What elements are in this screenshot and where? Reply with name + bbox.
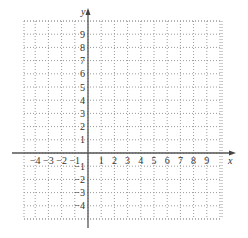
- x-tick-label: 7: [178, 155, 183, 166]
- y-tick-label: −4: [74, 200, 85, 211]
- y-tick-label: 5: [80, 82, 85, 93]
- y-tick-label: −1: [74, 161, 85, 172]
- tick-labels: −4−3−2−1123456789987654321−1−2−3−4: [30, 29, 209, 212]
- y-tick-label: 1: [80, 134, 85, 145]
- x-tick-label: 6: [165, 155, 170, 166]
- y-tick-label: 8: [80, 42, 85, 53]
- y-axis-arrow-icon: [86, 8, 91, 15]
- y-tick-label: 9: [80, 29, 85, 40]
- x-tick-label: 5: [152, 155, 157, 166]
- y-tick-label: 3: [80, 108, 85, 119]
- y-tick-label: −3: [74, 187, 85, 198]
- x-tick-label: 3: [125, 155, 130, 166]
- x-axis-label: x: [227, 155, 233, 166]
- x-tick-label: −3: [43, 155, 54, 166]
- y-tick-label: 6: [80, 68, 85, 79]
- y-axis-label: y: [80, 6, 86, 17]
- coordinate-plane: x y −4−3−2−1123456789987654321−1−2−3−4: [0, 0, 248, 238]
- x-tick-label: 9: [204, 155, 209, 166]
- y-tick-label: −2: [74, 174, 85, 185]
- x-tick-label: 1: [99, 155, 104, 166]
- x-tick-label: −4: [30, 155, 41, 166]
- y-tick-label: 4: [80, 95, 85, 106]
- x-tick-label: 4: [138, 155, 143, 166]
- y-tick-label: 2: [80, 121, 85, 132]
- x-tick-label: 8: [191, 155, 196, 166]
- x-tick-label: −2: [56, 155, 67, 166]
- grid-lines: [24, 21, 222, 219]
- x-tick-label: 2: [112, 155, 117, 166]
- y-tick-label: 7: [80, 55, 85, 66]
- axes: x y: [12, 6, 236, 228]
